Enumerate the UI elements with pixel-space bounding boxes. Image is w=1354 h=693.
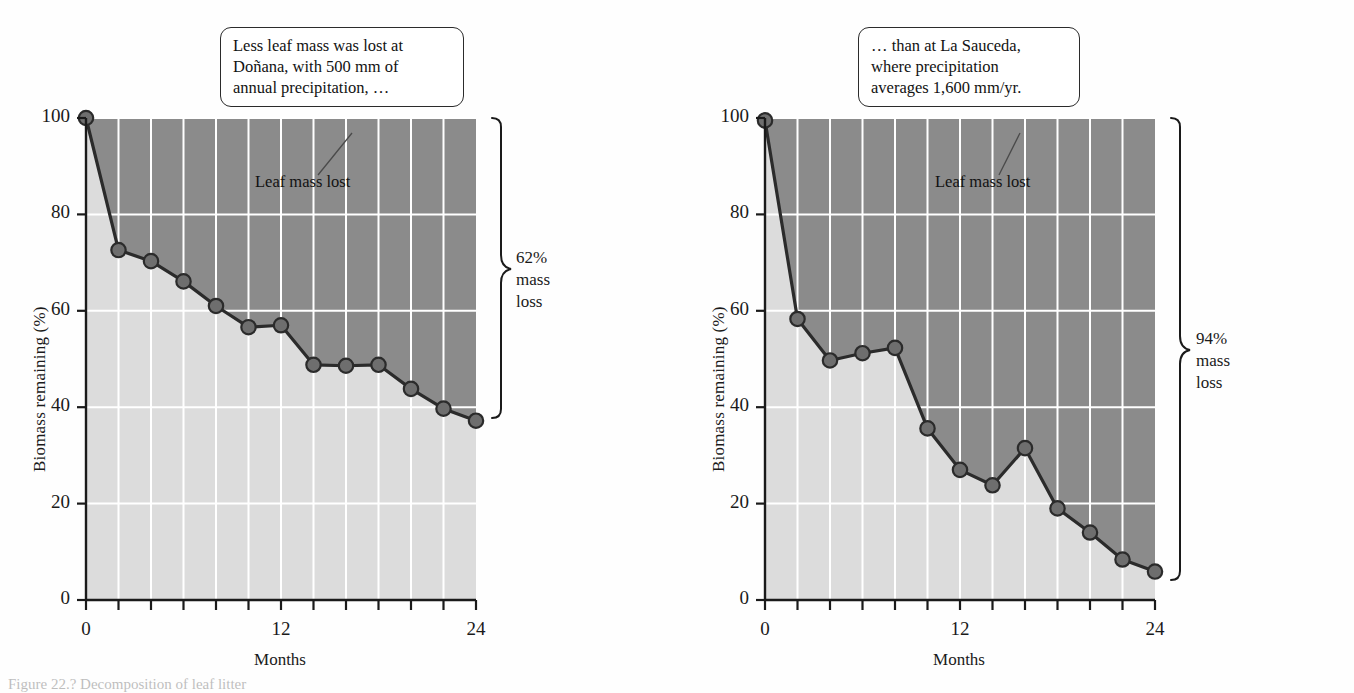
y-tick-label: 100	[703, 105, 749, 127]
x-axis-label: Months	[200, 650, 360, 670]
y-tick-label: 40	[703, 394, 749, 416]
y-tick-label: 20	[24, 491, 70, 513]
callout-line-2: Doñana, with 500 mm of	[233, 56, 452, 77]
x-axis-label: Months	[879, 650, 1039, 670]
callout-line-2: where precipitation	[871, 56, 1068, 77]
mass-loss-percent: 62%	[516, 247, 550, 269]
y-tick-label: 100	[24, 105, 70, 127]
mass-loss-word-mass: mass	[516, 269, 550, 291]
panel-donana: Biomass remaining (%) Months 02040608010…	[0, 0, 677, 691]
y-tick-label: 0	[703, 587, 749, 609]
mass-loss-word-loss: loss	[516, 291, 550, 313]
x-tick-label: 12	[258, 618, 304, 640]
callout-line-3: annual precipitation, …	[233, 77, 452, 98]
y-tick-label: 60	[24, 298, 70, 320]
callout-line-1: Less leaf mass was lost at	[233, 35, 452, 56]
callout-la-sauceda: … than at La Sauceda, where precipitatio…	[858, 27, 1080, 107]
y-tick-label: 0	[24, 587, 70, 609]
leaf-mass-lost-label: Leaf mass lost	[255, 172, 350, 192]
mass-loss-brace	[1171, 118, 1190, 580]
figure-caption: Figure 22.? Decomposition of leaf litter	[8, 676, 246, 693]
callout-line-3: averages 1,600 mm/yr.	[871, 77, 1068, 98]
y-tick-label: 80	[703, 201, 749, 223]
panel-la-sauceda: Biomass remaining (%) Months 02040608010…	[677, 0, 1354, 691]
mass-loss-word-loss: loss	[1196, 372, 1230, 394]
mass-loss-percent: 94%	[1196, 328, 1230, 350]
x-tick-label: 24	[1132, 618, 1178, 640]
mass-loss-brace	[492, 118, 511, 418]
y-axis-label: Biomass remaining (%)	[709, 306, 729, 472]
x-tick-label: 24	[453, 618, 499, 640]
y-tick-label: 80	[24, 201, 70, 223]
y-tick-label: 20	[703, 491, 749, 513]
y-tick-label: 60	[703, 298, 749, 320]
leaf-mass-lost-label: Leaf mass lost	[935, 172, 1030, 192]
mass-loss-note: 62% mass loss	[516, 247, 550, 313]
callout-line-1: … than at La Sauceda,	[871, 35, 1068, 56]
callout-donana: Less leaf mass was lost at Doñana, with …	[220, 27, 464, 107]
x-tick-label: 12	[937, 618, 983, 640]
mass-loss-word-mass: mass	[1196, 350, 1230, 372]
mass-loss-note: 94% mass loss	[1196, 328, 1230, 394]
y-tick-label: 40	[24, 394, 70, 416]
x-tick-label: 0	[742, 618, 788, 640]
x-tick-label: 0	[63, 618, 109, 640]
y-axis-label: Biomass remaining (%)	[30, 306, 50, 472]
